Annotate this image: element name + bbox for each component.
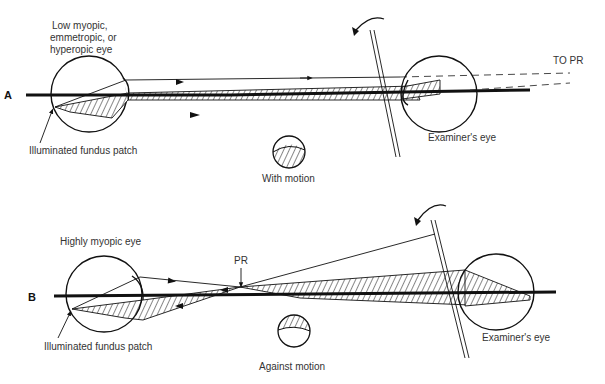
fundus-label-a: Illuminated fundus patch [29, 145, 137, 156]
dashed-to-pr-upper [400, 73, 570, 77]
fundus-pointer-a [40, 111, 52, 143]
light-beam-b-subject [72, 287, 240, 320]
against-motion-reflex-icon [278, 315, 310, 347]
fundus-label-b: Illuminated fundus patch [44, 341, 152, 352]
rotation-arrow-a [356, 18, 384, 30]
fundus-pointer-b [58, 313, 70, 338]
ray-a-upper [126, 77, 400, 80]
subject-eye-label-a: Low myopic, emmetropic, or hyperopic eye [50, 20, 119, 55]
against-motion-label: Against motion [259, 361, 325, 372]
pr-label-b: PR [234, 255, 248, 266]
panel-b: B Highly myopic eye PR [28, 205, 556, 372]
to-pr-label-a: TO PR [553, 55, 583, 66]
with-motion-label: With motion [262, 173, 315, 184]
rotation-arrow-b [418, 205, 446, 220]
subject-eye-label-b: Highly myopic eye [60, 236, 142, 247]
panel-a: A Low myopic, emmetropic, or hyperopic e… [4, 18, 583, 184]
examiner-eye-beam-a [402, 80, 440, 99]
ray-b-upper [140, 277, 240, 287]
retinoscopy-diagram: A Low myopic, emmetropic, or hyperopic e… [0, 0, 605, 384]
light-beam-b-examiner [240, 270, 470, 305]
examiner-label-a: Examiner's eye [428, 132, 496, 143]
with-motion-reflex-icon [273, 136, 305, 168]
panel-b-letter: B [28, 291, 36, 303]
examiner-label-b: Examiner's eye [482, 332, 550, 343]
panel-a-letter: A [4, 89, 12, 101]
examiner-eye-beam-b [465, 270, 530, 306]
